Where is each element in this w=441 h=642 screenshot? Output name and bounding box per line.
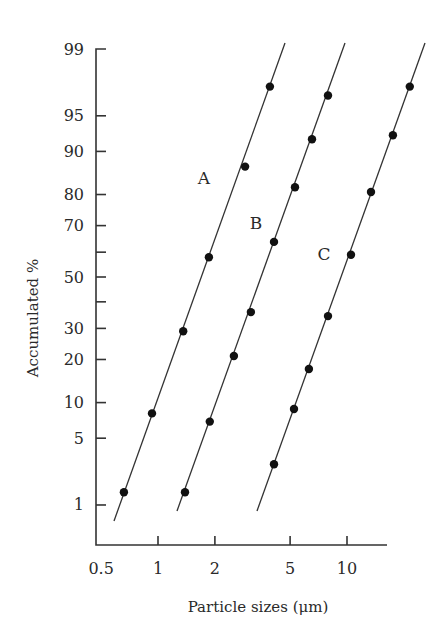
series-labels: ABC: [197, 168, 331, 264]
fit-lines: [114, 43, 425, 521]
data-point-c: [324, 312, 332, 320]
data-point-c: [367, 188, 375, 196]
chart-canvas: 151020305070809095990.512510 ABC Particl…: [0, 0, 441, 642]
data-point-b: [308, 135, 316, 143]
x-tick-label: 2: [210, 559, 220, 578]
data-point-c: [290, 405, 298, 413]
y-tick-label: 50: [64, 268, 84, 287]
y-tick-label: 10: [64, 393, 84, 412]
data-point-a: [205, 253, 213, 261]
data-point-c: [305, 365, 313, 373]
y-tick-label: 5: [74, 429, 84, 448]
series-label-c: C: [317, 244, 330, 264]
data-point-c: [270, 460, 278, 468]
data-markers: [120, 82, 414, 496]
y-tick-label: 95: [64, 106, 84, 125]
particle-size-probability-chart: 151020305070809095990.512510 ABC Particl…: [0, 0, 441, 642]
data-point-b: [181, 488, 189, 496]
x-tick-label: 1: [153, 559, 163, 578]
data-point-c: [389, 131, 397, 139]
data-point-b: [206, 417, 214, 425]
data-point-b: [270, 238, 278, 246]
data-point-c: [347, 251, 355, 259]
data-point-a: [120, 488, 128, 496]
y-tick-label: 70: [64, 216, 84, 235]
data-point-a: [148, 409, 156, 417]
x-axis-title: Particle sizes (μm): [188, 598, 329, 616]
y-axis-title: Accumulated %: [24, 259, 42, 378]
y-tick-label: 90: [64, 142, 84, 161]
axes: 151020305070809095990.512510: [64, 40, 387, 578]
axis-frame: [96, 49, 387, 545]
data-point-a: [179, 327, 187, 335]
y-tick-label: 20: [64, 350, 84, 369]
data-point-b: [230, 352, 238, 360]
data-point-c: [406, 82, 414, 90]
data-point-b: [247, 308, 255, 316]
series-label-a: A: [197, 168, 211, 188]
y-tick-label: 80: [64, 185, 84, 204]
data-point-b: [324, 91, 332, 99]
x-tick-label: 0.5: [88, 559, 113, 578]
y-tick-label: 30: [64, 319, 84, 338]
x-tick-label: 5: [285, 559, 295, 578]
fit-line-c: [257, 43, 425, 511]
x-tick-label: 10: [337, 559, 357, 578]
data-point-a: [266, 82, 274, 90]
series-label-b: B: [250, 213, 263, 233]
y-tick-label: 99: [64, 40, 84, 59]
y-tick-label: 1: [74, 495, 84, 514]
fit-line-b: [177, 43, 345, 511]
data-point-b: [291, 183, 299, 191]
data-point-a: [241, 162, 249, 170]
